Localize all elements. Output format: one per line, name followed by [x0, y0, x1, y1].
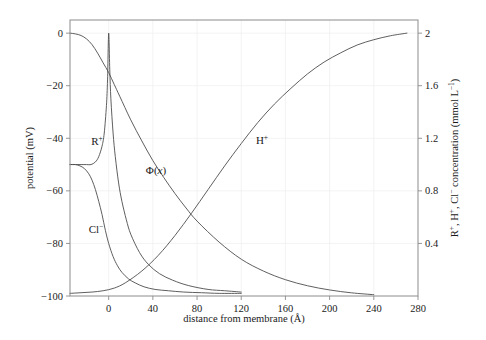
y-tick-label: −60: [47, 185, 63, 196]
curve-R-plus: [70, 33, 241, 292]
data-curves: [70, 33, 407, 295]
label-Phi: Φ(x): [146, 164, 167, 177]
x-tick-label: 200: [322, 303, 338, 314]
y-tick-label: −40: [47, 133, 63, 144]
curve-Phi(x): [70, 33, 374, 295]
plot-svg: 04080120160200240280 0−20−40−60−80−100 0…: [0, 0, 486, 340]
label-Cl-minus: Cl−: [89, 222, 104, 236]
y-tick-label: 0: [58, 28, 63, 39]
y-tick-label: −100: [41, 291, 63, 302]
y2-title-text: R+, H+, Cl− concentration (mmol L−1): [447, 78, 462, 237]
y-tick-label: −80: [47, 238, 63, 249]
y-axis-right-ticks: 0.40.81.21.62: [418, 28, 439, 249]
x-tick-label: 40: [148, 303, 159, 314]
plot-frame: [70, 20, 418, 296]
x-tick-label: 0: [106, 303, 111, 314]
curve-H-plus: [70, 33, 407, 293]
y-axis-left-ticks: 0−20−40−60−80−100: [41, 28, 70, 302]
gridlines: [70, 20, 418, 296]
y-axis-right-title: R+, H+, Cl− concentration (mmol L−1): [447, 78, 462, 237]
y2-tick-label: 1.6: [425, 80, 438, 91]
label-H-plus: H+: [256, 133, 268, 147]
x-tick-label: 240: [366, 303, 382, 314]
y2-tick-label: 2: [425, 28, 430, 39]
y2-tick-label: 0.8: [425, 185, 438, 196]
x-tick-label: 280: [410, 303, 426, 314]
x-axis-ticks: 04080120160200240280: [106, 296, 426, 314]
chart-figure: 04080120160200240280 0−20−40−60−80−100 0…: [0, 0, 486, 340]
label-R-plus: R+: [91, 134, 103, 148]
y2-tick-label: 0.4: [425, 238, 439, 249]
y2-tick-label: 1.2: [425, 133, 438, 144]
x-axis-title: distance from membrane (Å): [183, 313, 305, 325]
y-tick-label: −20: [47, 80, 63, 91]
y-axis-left-title: potential (mV): [24, 126, 36, 189]
